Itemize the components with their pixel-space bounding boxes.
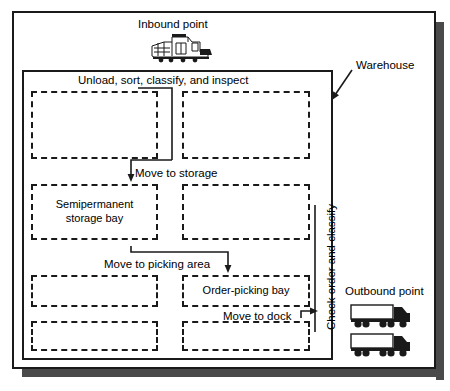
diagram-canvas: Inbound point <box>0 0 450 391</box>
flow-connector-overlay <box>0 0 450 391</box>
connector-move-dock <box>301 311 311 318</box>
connector-warehouse-callout <box>335 70 352 95</box>
connector-move-picking <box>131 246 228 266</box>
arrowhead-move-storage <box>128 174 135 182</box>
arrowhead-move-picking <box>225 265 232 273</box>
connector-unload-underline <box>138 88 172 160</box>
arrowhead-warehouse-callout <box>332 91 339 100</box>
arrowhead-move-dock <box>310 308 318 315</box>
connector-move-storage <box>131 160 172 175</box>
